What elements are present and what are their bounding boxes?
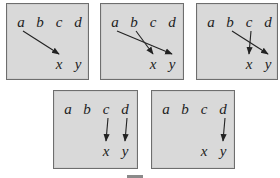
panel-2: abcdxy <box>100 3 184 80</box>
arrow-d-to-y <box>223 118 225 141</box>
arrow-c-to-x <box>106 118 108 141</box>
arrow-b-to-x <box>136 31 153 54</box>
panel-4: abcdxy <box>53 90 138 169</box>
panel-1: abcdxy <box>6 3 89 80</box>
arrows-layer <box>54 91 139 170</box>
arrows-layer <box>152 91 236 170</box>
arrows-layer <box>197 4 279 81</box>
caption-fragment <box>127 175 143 178</box>
panel-3: abcdxy <box>196 3 278 80</box>
arrow-a-to-x <box>23 31 59 54</box>
arrows-layer <box>7 4 90 81</box>
arrow-d-to-y <box>125 118 127 141</box>
arrows-layer <box>101 4 185 81</box>
panel-5: abcdxy <box>151 90 235 169</box>
